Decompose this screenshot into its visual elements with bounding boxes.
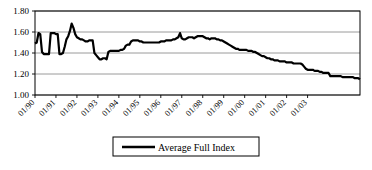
x-tick-label: 01/92 xyxy=(58,97,79,118)
chart-container: 1.001.201.401.601.80 01/9001/9101/9201/9… xyxy=(0,0,372,170)
x-tick-label: 01/98 xyxy=(183,97,204,118)
y-tick-label: 1.80 xyxy=(13,6,29,16)
y-tick-label: 1.60 xyxy=(13,27,29,37)
average-full-index-line-chart: 1.001.201.401.601.80 01/9001/9101/9201/9… xyxy=(0,0,372,170)
x-tick-label: 01/93 xyxy=(79,97,100,118)
x-tick-label: 01/99 xyxy=(204,97,225,118)
y-tick-label: 1.20 xyxy=(13,69,29,79)
x-tick-label: 01/96 xyxy=(141,97,162,118)
x-tick-label: 01/02 xyxy=(267,97,288,118)
x-tick-label: 01/90 xyxy=(16,97,37,118)
x-tick-label: 01/00 xyxy=(225,97,246,118)
plot-gridlines xyxy=(35,11,360,95)
x-tick-label: 01/94 xyxy=(100,97,121,118)
legend-label-average-full-index: Average Full Index xyxy=(158,142,235,153)
x-tick-label: 01/95 xyxy=(120,97,141,118)
x-tick-label: 01/97 xyxy=(162,97,183,118)
x-tick-label: 01/03 xyxy=(288,97,309,118)
legend: Average Full Index xyxy=(113,137,259,156)
x-axis-tick-labels: 01/9001/9101/9201/9301/9401/9501/9601/97… xyxy=(16,97,309,118)
x-tick-label: 01/01 xyxy=(246,97,267,118)
y-tick-label: 1.40 xyxy=(13,48,29,58)
x-tick-label: 01/91 xyxy=(37,97,58,118)
y-axis-tick-labels: 1.001.201.401.601.80 xyxy=(13,6,29,100)
